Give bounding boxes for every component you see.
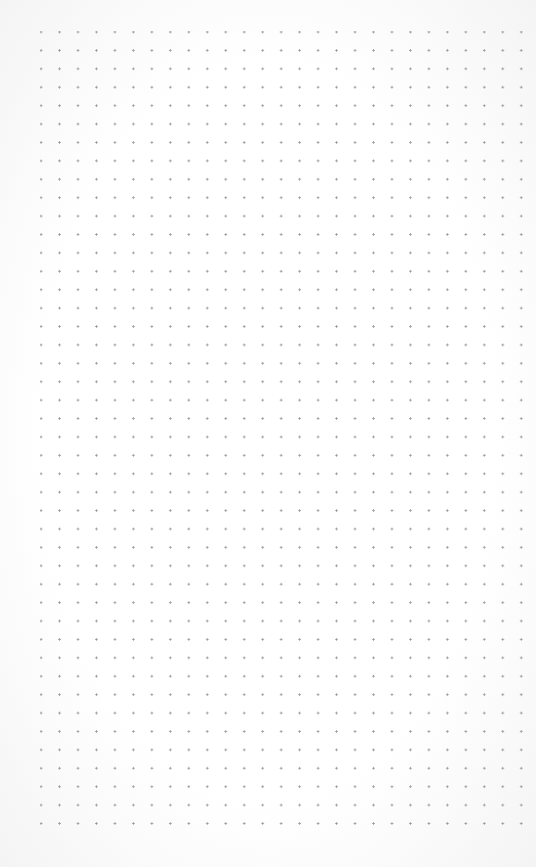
dot-grid [40, 31, 523, 826]
dot-grid-page: dot-grid [0, 0, 536, 867]
